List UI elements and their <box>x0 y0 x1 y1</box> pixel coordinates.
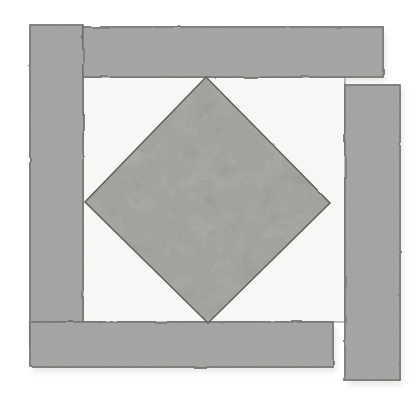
right-border-strip <box>345 85 400 380</box>
bottom-border-strip <box>30 322 333 367</box>
quilt-block-canvas <box>0 0 420 395</box>
top-border-strip <box>83 27 383 77</box>
quilt-block-illustration <box>0 0 420 395</box>
left-border-strip <box>30 25 83 347</box>
